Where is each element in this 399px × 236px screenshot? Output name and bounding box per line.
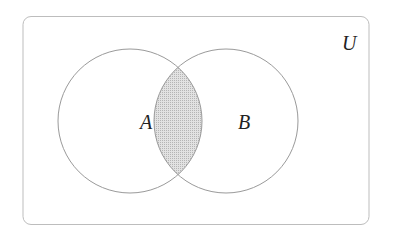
set-a-label: A (138, 111, 153, 133)
venn-diagram: U A B (0, 0, 399, 236)
set-b-label: B (238, 111, 250, 133)
universe-label: U (342, 32, 358, 54)
